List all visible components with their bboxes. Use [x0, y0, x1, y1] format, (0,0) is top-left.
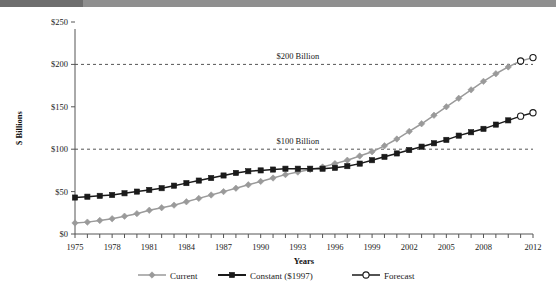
- y-axis-tick-label: $150: [51, 102, 68, 112]
- top-header-bar: [0, 0, 556, 7]
- data-marker: [221, 173, 226, 178]
- annotation-label: $100 Billion: [276, 136, 319, 146]
- data-marker: [229, 272, 234, 277]
- data-marker: [444, 137, 449, 142]
- data-marker: [171, 183, 176, 188]
- forecast-marker: [518, 113, 524, 119]
- x-axis-tick-label: 1999: [364, 242, 381, 252]
- chart-container: $0$50$100$150$200$2501975197819811984198…: [0, 7, 556, 295]
- x-axis-tick-label: 1975: [67, 242, 84, 252]
- data-marker: [344, 157, 350, 163]
- y-axis-tick-label: $100: [51, 144, 68, 154]
- data-marker: [146, 207, 152, 213]
- data-marker: [270, 167, 275, 172]
- series-line-constant-1997: [75, 113, 533, 198]
- y-axis-tick-label: $50: [55, 187, 68, 197]
- data-marker: [394, 151, 399, 156]
- data-marker: [245, 182, 251, 188]
- x-axis-tick-label: 1981: [141, 242, 158, 252]
- data-marker: [431, 141, 436, 146]
- data-marker: [282, 171, 288, 177]
- x-axis-tick-label: 1978: [104, 242, 121, 252]
- data-marker: [505, 64, 511, 70]
- data-marker: [357, 161, 362, 166]
- data-marker: [72, 220, 78, 226]
- data-marker: [196, 195, 202, 201]
- data-marker: [147, 187, 152, 192]
- data-marker: [171, 202, 177, 208]
- data-marker: [493, 122, 498, 127]
- x-axis-tick-label: 2002: [401, 242, 418, 252]
- data-marker: [381, 143, 387, 149]
- x-axis-tick-label: 2008: [475, 242, 492, 252]
- data-marker: [158, 205, 164, 211]
- y-axis-tick-label: $250: [51, 17, 68, 27]
- data-marker: [308, 166, 313, 171]
- forecast-marker: [530, 110, 536, 116]
- forecast-marker: [530, 55, 536, 61]
- data-marker: [196, 178, 201, 183]
- x-axis-tick-label: 2005: [438, 242, 455, 252]
- data-marker: [209, 175, 214, 180]
- data-marker: [506, 118, 511, 123]
- data-marker: [407, 147, 412, 152]
- data-marker: [295, 166, 300, 171]
- y-axis-tick-label: $200: [51, 59, 68, 69]
- data-marker: [320, 166, 325, 171]
- data-marker: [469, 130, 474, 135]
- x-axis-tick-label: 1993: [289, 242, 306, 252]
- data-marker: [183, 199, 189, 205]
- x-axis-tick-label: 2012: [525, 242, 542, 252]
- x-axis-title: Years: [294, 256, 315, 266]
- data-marker: [419, 144, 424, 149]
- y-axis-title: $ Billions: [14, 110, 24, 144]
- x-axis-tick-label: 1984: [178, 242, 196, 252]
- data-marker: [233, 170, 238, 175]
- data-marker: [257, 178, 263, 184]
- data-marker: [283, 166, 288, 171]
- x-axis-tick-label: 1987: [215, 242, 232, 252]
- data-marker: [220, 188, 226, 194]
- data-marker: [134, 189, 139, 194]
- y-axis-tick-label: $0: [60, 229, 69, 239]
- line-chart: $0$50$100$150$200$2501975197819811984198…: [0, 7, 556, 295]
- data-marker: [369, 158, 374, 163]
- annotation-label: $200 Billion: [276, 51, 319, 61]
- data-marker: [97, 193, 102, 198]
- data-marker: [208, 192, 214, 198]
- data-marker: [149, 272, 155, 278]
- data-marker: [357, 153, 363, 159]
- data-marker: [456, 133, 461, 138]
- forecast-marker: [518, 58, 524, 64]
- data-marker: [258, 168, 263, 173]
- chart-legend: CurrentConstant ($1997)Forecast: [138, 271, 415, 281]
- data-marker: [109, 216, 115, 222]
- data-marker: [481, 126, 486, 131]
- data-marker: [159, 186, 164, 191]
- data-marker: [121, 213, 127, 219]
- data-marker: [270, 175, 276, 181]
- legend-label: Forecast: [384, 271, 415, 281]
- data-marker: [97, 217, 103, 223]
- data-marker: [85, 194, 90, 199]
- data-marker: [122, 191, 127, 196]
- x-axis-tick-label: 1990: [252, 242, 269, 252]
- x-axis-tick-label: 1996: [326, 242, 343, 252]
- data-marker: [184, 181, 189, 186]
- data-marker: [84, 219, 90, 225]
- data-marker: [332, 165, 337, 170]
- forecast-marker: [363, 272, 369, 278]
- legend-label: Constant ($1997): [250, 271, 313, 281]
- data-marker: [233, 185, 239, 191]
- data-marker: [345, 164, 350, 169]
- data-marker: [382, 154, 387, 159]
- data-marker: [110, 192, 115, 197]
- top-header-left-block: [0, 0, 83, 7]
- data-marker: [134, 210, 140, 216]
- data-marker: [246, 169, 251, 174]
- data-marker: [72, 195, 77, 200]
- legend-label: Current: [170, 271, 198, 281]
